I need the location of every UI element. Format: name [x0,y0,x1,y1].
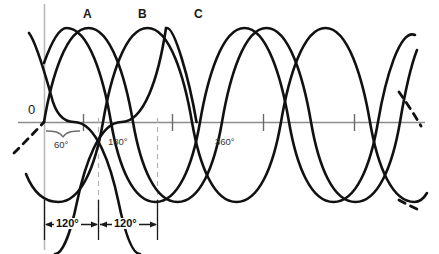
dim-arrow-right-1 [91,222,98,228]
waveform-plot [0,0,439,254]
dim-arrow-left-2 [100,222,107,228]
waveform-figure: A B C 0 60° 180° 360° 120° 120° [0,0,439,254]
waveform-curve-b [26,28,427,202]
origin-label: 0 [28,103,35,116]
angle-label-360: 360° [215,137,235,147]
dim-arrow-left-1 [45,222,52,228]
waveform-curve-c-main [44,28,415,202]
phase-label-b: B [138,8,147,20]
angle-label-60: 60° [54,140,68,150]
dimension-label-second: 120° [112,218,139,229]
phase-label-a: A [83,8,92,20]
angle-label-180: 180° [108,137,128,147]
dim-arrow-right-2 [150,222,157,228]
waveform-dashed-lead-a [14,122,44,153]
dimension-label-first: 120° [54,218,81,229]
phase-label-c: C [194,8,203,20]
waveform-curve-a [44,28,417,202]
sixty-degree-brace [46,131,80,137]
